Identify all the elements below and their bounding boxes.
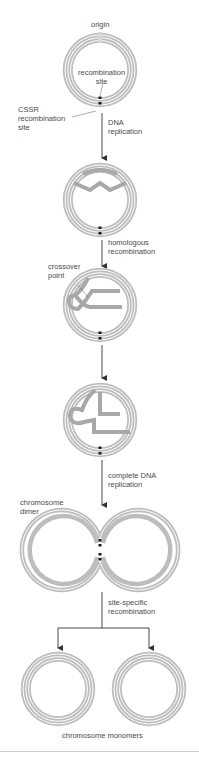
label-crossover-point: crossover point	[48, 262, 81, 280]
site-marker-icon	[99, 558, 102, 561]
step-label-dna-replication: DNA replication	[108, 118, 142, 136]
site-marker-icon	[99, 232, 102, 235]
label-origin: origin	[91, 20, 109, 29]
cssr-leader	[72, 111, 96, 117]
bottom-divider	[0, 751, 199, 752]
site-marker-icon	[99, 227, 102, 230]
monomer-left	[23, 654, 93, 724]
label-chromosome-dimer: chromosome dimer	[20, 498, 63, 516]
site-marker-icon	[99, 102, 102, 105]
step-label-homologous-recombination: homologous recombination	[108, 238, 155, 256]
site-marker-icon	[99, 452, 102, 455]
step-label-site-specific-recombination: site-specific recombination	[108, 598, 155, 616]
site-marker-icon	[99, 97, 102, 100]
site-marker-icon	[99, 447, 102, 450]
site-marker-icon	[99, 539, 102, 542]
site-marker-icon	[99, 337, 102, 340]
label-recombination-site: recombination site	[78, 68, 125, 86]
site-marker-icon	[99, 332, 102, 335]
monomer-right	[114, 654, 184, 724]
origin-marker	[98, 32, 102, 43]
site-marker-icon	[99, 544, 102, 547]
label-chromosome-monomers: chromosome monomers	[62, 731, 143, 740]
site-marker-icon	[99, 553, 102, 556]
step-label-complete-replication: complete DNA replication	[108, 471, 156, 489]
stage-crossover	[65, 270, 135, 340]
label-cssr-site: CSSR recombination site	[18, 105, 65, 132]
stage-replication-bubble	[65, 165, 135, 235]
stage-dimer	[22, 510, 178, 590]
stage-post-crossover	[65, 385, 135, 455]
